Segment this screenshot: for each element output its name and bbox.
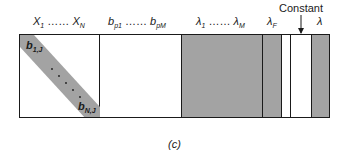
figure-caption: (c): [0, 138, 349, 150]
b-1j-subscript: 1,J: [33, 46, 43, 53]
b-nj-label: bN,J: [78, 101, 96, 114]
lambda-header: λ: [317, 16, 322, 27]
constant-arrow-icon: [296, 15, 306, 35]
x-last-symbol: X: [72, 15, 79, 27]
x-block-header: X1 …… XN: [33, 16, 85, 29]
b-block-column: [100, 35, 182, 117]
blank-column: [282, 35, 291, 117]
x-first-subscript: 1: [40, 22, 44, 29]
x-last-subscript: N: [80, 22, 85, 29]
b-ellipsis: ……: [125, 15, 147, 27]
b-last-subscript: pM: [156, 22, 166, 29]
b-nj-subscript: N,J: [85, 107, 96, 114]
lambda-last-subscript: M: [239, 22, 245, 29]
lambda-f-column: [263, 35, 282, 117]
b-1j-label: b1,J: [26, 40, 42, 53]
b-1j-symbol: b: [26, 39, 33, 51]
x-ellipsis: ……: [47, 15, 69, 27]
lambda-ellipsis: ……: [208, 15, 230, 27]
lambda-f-header: λF: [267, 16, 277, 29]
b-first-subscript: p1: [114, 22, 122, 29]
b-nj-symbol: b: [78, 100, 85, 112]
lambda-f-subscript: F: [272, 22, 276, 29]
lambda-block-header: λ1 …… λM: [196, 16, 245, 29]
diagonal-band: b1,J bN,J: [20, 35, 100, 118]
lambda-first-subscript: 1: [201, 22, 205, 29]
constant-label: Constant: [279, 3, 323, 14]
constant-column: [291, 35, 312, 117]
lambda-block-column: [182, 35, 263, 117]
b-block-header: bp1 …… bpM: [108, 16, 166, 29]
matrix-box: b1,J bN,J: [19, 34, 330, 118]
lambda-column: [312, 35, 330, 117]
